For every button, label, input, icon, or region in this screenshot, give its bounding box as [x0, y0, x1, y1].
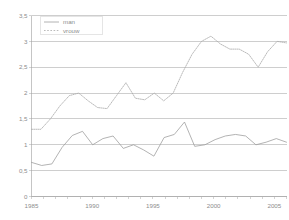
x-tick-label: 2005: [267, 202, 281, 209]
chart-canvas: 00,511,522,533,5 19851990199520002005 ma…: [0, 0, 289, 220]
y-axis-labels-group: 00,511,522,533,5: [19, 12, 28, 200]
x-tick-label: 2000: [207, 202, 221, 209]
x-tick-marks-group: [32, 197, 287, 200]
y-tick-label: 3: [24, 38, 28, 45]
axes-group: [32, 16, 287, 197]
y-tick-label: 0: [24, 193, 28, 200]
y-tick-label: 2,5: [19, 63, 28, 70]
y-tick-label: 3,5: [19, 12, 28, 19]
series-line-man: [32, 122, 287, 165]
line-chart: 00,511,522,533,5 19851990199520002005 ma…: [0, 0, 289, 220]
legend-label-man: man: [63, 18, 76, 25]
gridlines-group: [32, 16, 287, 197]
y-tick-marks-group: [29, 16, 32, 197]
data-series-group: [32, 36, 287, 165]
x-tick-label: 1995: [146, 202, 160, 209]
chart-legend: manvrouw: [40, 17, 102, 35]
y-tick-label: 1: [24, 141, 28, 148]
y-tick-label: 1,5: [19, 115, 28, 122]
x-tick-label: 1990: [85, 202, 99, 209]
y-tick-label: 0,5: [19, 167, 28, 174]
y-tick-label: 2: [24, 89, 28, 96]
legend-label-vrouw: vrouw: [63, 27, 80, 34]
x-tick-label: 1985: [25, 202, 39, 209]
series-line-vrouw: [32, 36, 287, 129]
x-axis-labels-group: 19851990199520002005: [25, 202, 282, 209]
